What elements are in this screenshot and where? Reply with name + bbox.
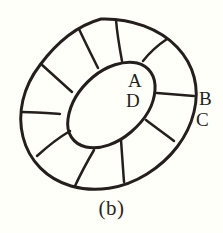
figure-container: A D B C (b) (0, 0, 223, 233)
segment-divider-7 (37, 131, 70, 156)
segment-divider-2 (143, 39, 167, 61)
label-c: C (196, 110, 209, 129)
segment-divider-4 (146, 120, 174, 141)
figure-caption: (b) (0, 196, 223, 221)
label-a: A (128, 71, 142, 90)
torus-outline-group (21, 19, 197, 189)
segment-divider-6 (75, 150, 94, 186)
outer-ellipse-path (21, 19, 197, 189)
segment-divider-5 (121, 140, 124, 182)
segment-divider-1 (116, 20, 122, 61)
segment-dividers-group (22, 20, 194, 186)
segment-divider-9 (41, 64, 72, 92)
label-b: B (199, 89, 212, 108)
label-d: D (126, 91, 140, 110)
segment-divider-3 (157, 93, 194, 96)
segment-divider-8 (22, 112, 60, 114)
segment-divider-10 (79, 29, 98, 68)
